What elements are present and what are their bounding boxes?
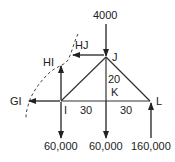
hj-label: HJ <box>75 39 88 51</box>
node-K-label: K <box>111 86 119 98</box>
gi-label: GI <box>10 95 22 107</box>
member-IJ <box>61 57 106 101</box>
load-at-I-label: 60,000 <box>44 140 78 152</box>
load-at-K-label: 60,000 <box>89 140 123 152</box>
truss-free-body-diagram: 4000 HJ J HI 20 K GI I 30 30 L 60,000 60… <box>0 0 175 162</box>
top-load-label: 4000 <box>93 9 117 21</box>
section-cut-line <box>26 34 78 118</box>
ik-dimension-label: 30 <box>80 104 92 116</box>
node-L-label: L <box>156 95 162 107</box>
jk-dimension-label: 20 <box>108 73 120 85</box>
hi-label: HI <box>43 56 54 68</box>
node-I-label: I <box>64 104 67 116</box>
kl-dimension-label: 30 <box>120 104 132 116</box>
node-J-label: J <box>112 51 118 63</box>
reaction-at-L-label: 160,000 <box>131 140 171 152</box>
